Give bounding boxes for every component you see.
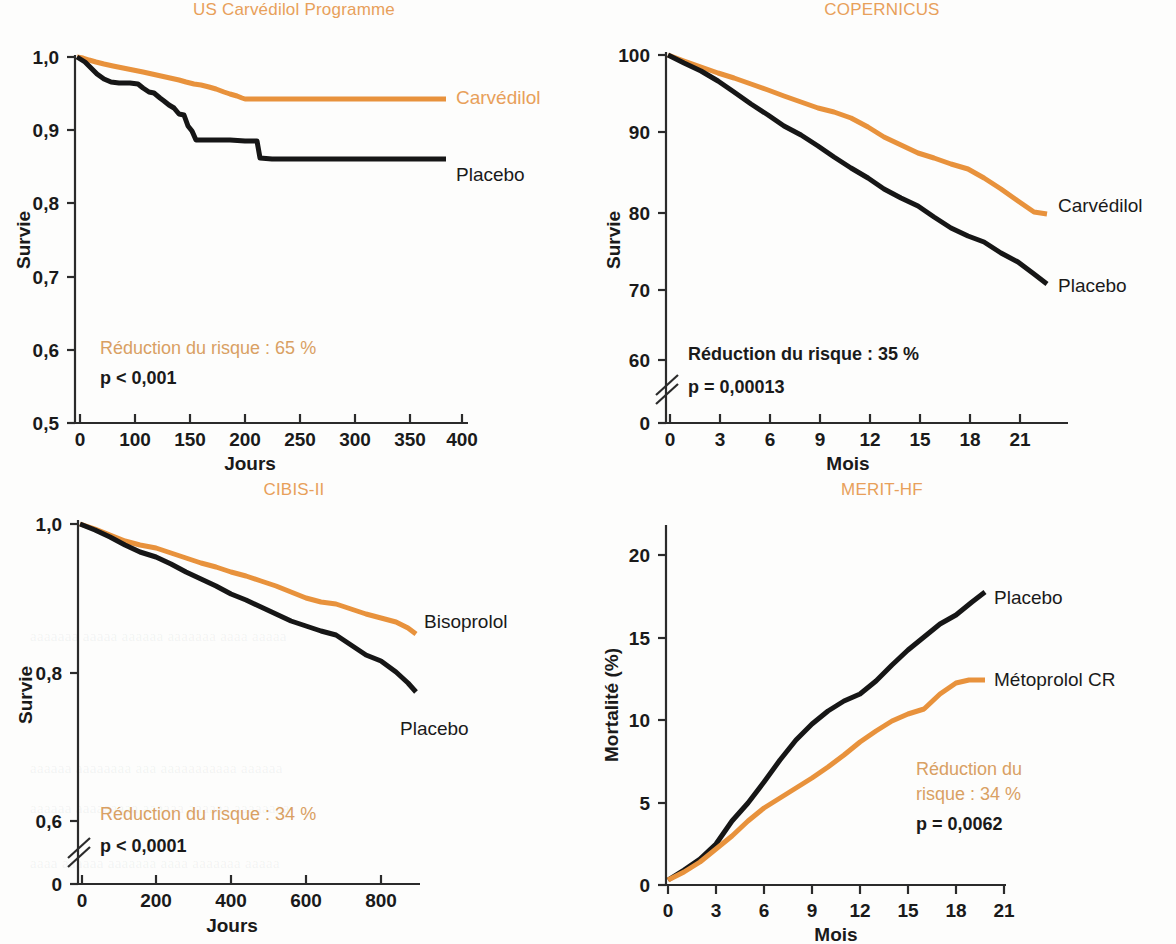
series-label-carvedilol: Carvédilol <box>1058 195 1142 216</box>
plot-area: 1,0 0,8 0,6 0 0 200 400 600 800 Jours Su… <box>0 480 588 944</box>
y-axis-title: Survie <box>603 211 624 269</box>
x-tick-label: 0 <box>77 890 88 911</box>
x-tick-label: 6 <box>765 429 776 450</box>
x-tick-label: 6 <box>759 900 770 921</box>
y-axis-title: Survie <box>15 666 36 724</box>
x-tick-label: 15 <box>909 429 931 450</box>
series-label-placebo: Placebo <box>994 587 1063 608</box>
y-tick-label: 20 <box>629 545 650 566</box>
y-ticks: 20 15 10 5 0 <box>629 545 666 896</box>
y-tick-label: 15 <box>629 628 651 649</box>
panel-merit-hf: MERIT-HF 20 15 10 5 0 <box>588 480 1176 944</box>
panel-title: CIBIS-II <box>0 480 588 500</box>
plot-area: 1,0 0,9 0,8 0,7 0,6 0,5 0 100 150 2 <box>0 0 588 480</box>
y-tick-label: 0,9 <box>33 120 59 141</box>
x-tick-label: 800 <box>365 890 397 911</box>
x-tick-label: 350 <box>394 429 426 450</box>
y-tick-label: 0 <box>639 875 650 896</box>
x-tick-label: 600 <box>290 890 322 911</box>
series-label-placebo: Placebo <box>456 164 525 185</box>
panel-title: COPERNICUS <box>588 0 1176 20</box>
risk-reduction-annotation-line2: risque : 34 % <box>916 784 1021 804</box>
y-tick-label: 0,7 <box>33 267 59 288</box>
y-tick-label: 0 <box>639 413 650 434</box>
x-tick-label: 400 <box>215 890 247 911</box>
series-label-metoprolol: Métoprolol CR <box>994 669 1115 690</box>
x-tick-label: 3 <box>711 900 722 921</box>
p-value-annotation: p = 0,00013 <box>688 377 785 397</box>
x-tick-label: 100 <box>119 429 151 450</box>
y-tick-label: 0 <box>51 874 62 895</box>
x-ticks: 0 200 400 600 800 <box>77 875 397 911</box>
risk-reduction-annotation: Réduction du risque : 35 % <box>688 344 919 364</box>
p-value-annotation: p < 0,0001 <box>100 836 187 856</box>
y-tick-label: 10 <box>629 710 650 731</box>
y-tick-label: 100 <box>618 45 650 66</box>
risk-reduction-annotation: Réduction du risque : 65 % <box>100 338 316 358</box>
x-tick-label: 3 <box>715 429 726 450</box>
y-tick-label: 0,6 <box>36 811 62 832</box>
series-curve-carvedilol <box>668 55 1047 214</box>
x-tick-label: 0 <box>663 900 674 921</box>
plot-area: 100 90 80 70 60 0 0 3 6 9 12 <box>588 0 1176 480</box>
x-tick-label: 250 <box>284 429 316 450</box>
y-tick-label: 5 <box>639 793 650 814</box>
x-tick-label: 200 <box>140 890 172 911</box>
x-axis-title: Mois <box>814 924 857 944</box>
panel-us-carvedilol: US Carvédilol Programme 1,0 0,9 0,8 0,7 … <box>0 0 588 480</box>
y-tick-label: 60 <box>629 350 650 371</box>
series-label-placebo: Placebo <box>400 718 469 739</box>
y-tick-label: 0,8 <box>36 663 62 684</box>
x-tick-label: 12 <box>849 900 870 921</box>
y-tick-label: 1,0 <box>36 514 62 535</box>
y-tick-label: 80 <box>629 203 650 224</box>
figure-root: aaaaaaa aaaaa aaaaaa aaaaaaa aaaa aaaaa … <box>0 0 1176 944</box>
y-tick-label: 0,6 <box>33 340 59 361</box>
x-ticks: 0 3 6 9 12 15 18 21 <box>663 885 1015 921</box>
x-tick-label: 12 <box>859 429 880 450</box>
y-tick-label: 1,0 <box>33 47 59 68</box>
x-tick-label: 18 <box>959 429 980 450</box>
plot-area: 20 15 10 5 0 0 3 6 9 12 15 <box>588 480 1176 944</box>
y-tick-label: 0,8 <box>33 193 59 214</box>
x-tick-label: 400 <box>446 429 478 450</box>
x-tick-label: 200 <box>229 429 261 450</box>
series-curve-carvedilol <box>77 57 446 99</box>
series-curve-placebo <box>80 524 416 692</box>
panel-title: MERIT-HF <box>588 480 1176 500</box>
x-tick-label: 300 <box>339 429 371 450</box>
series-curve-placebo <box>668 592 985 880</box>
x-axis-title: Mois <box>826 453 869 474</box>
x-axis-title: Jours <box>206 915 258 936</box>
p-value-annotation: p = 0,0062 <box>916 814 1003 834</box>
y-axis-title: Mortalité (%) <box>601 648 622 762</box>
series-label-placebo: Placebo <box>1058 275 1127 296</box>
panel-cibis-ii: CIBIS-II 1,0 0,8 0,6 0 <box>0 480 588 944</box>
x-tick-label: 150 <box>174 429 206 450</box>
series-curve-bisoprolol <box>80 524 416 634</box>
y-ticks: 1,0 0,9 0,8 0,7 0,6 0,5 <box>33 47 75 434</box>
risk-reduction-annotation-line1: Réduction du <box>916 759 1022 779</box>
panel-title: US Carvédilol Programme <box>0 0 588 20</box>
risk-reduction-annotation: Réduction du risque : 34 % <box>100 804 316 824</box>
series-label-carvedilol: Carvédilol <box>456 87 540 108</box>
y-axis-title: Survie <box>13 211 34 269</box>
y-tick-label: 70 <box>629 280 650 301</box>
p-value-annotation: p < 0,001 <box>100 368 177 388</box>
x-tick-label: 21 <box>993 900 1015 921</box>
x-tick-label: 21 <box>1009 429 1031 450</box>
y-tick-label: 90 <box>629 122 650 143</box>
y-tick-label: 0,5 <box>33 413 60 434</box>
panel-copernicus: COPERNICUS 100 90 80 70 60 0 <box>588 0 1176 480</box>
x-ticks: 0 3 6 9 12 15 18 21 <box>665 414 1031 450</box>
x-tick-label: 0 <box>665 429 676 450</box>
series-curve-placebo <box>668 55 1047 284</box>
series-label-bisoprolol: Bisoprolol <box>424 611 507 632</box>
x-tick-label: 0 <box>75 429 86 450</box>
y-ticks: 1,0 0,8 0,6 0 <box>36 514 78 895</box>
x-ticks: 0 100 150 200 250 300 350 400 <box>75 414 478 450</box>
x-tick-label: 9 <box>807 900 818 921</box>
x-tick-label: 15 <box>897 900 919 921</box>
x-tick-label: 9 <box>815 429 826 450</box>
x-tick-label: 18 <box>945 900 966 921</box>
